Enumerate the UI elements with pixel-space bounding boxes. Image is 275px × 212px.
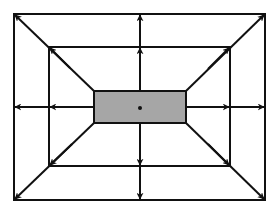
center-dot	[138, 106, 142, 110]
expansion-diagram	[0, 0, 275, 212]
